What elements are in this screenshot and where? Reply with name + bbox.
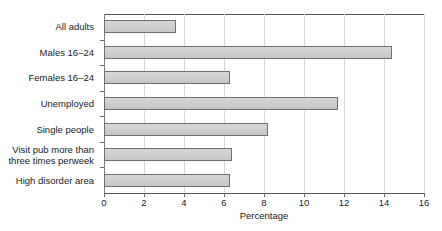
y-axis-tick	[100, 167, 104, 168]
bar	[104, 71, 230, 84]
x-axis-tick-label: 6	[204, 197, 244, 209]
category-label: Unemployed	[0, 98, 94, 109]
x-axis-title: Percentage	[104, 210, 424, 221]
category-label-line: Single people	[0, 124, 94, 135]
gridline	[344, 14, 345, 193]
category-label-line: High disorder area	[0, 175, 94, 186]
category-label-line: Unemployed	[0, 98, 94, 109]
x-axis-tick-label: 10	[284, 197, 324, 209]
x-axis-tick-label: 4	[164, 197, 204, 209]
y-axis-tick	[100, 40, 104, 41]
category-label: All adults	[0, 21, 94, 32]
category-label: Single people	[0, 124, 94, 135]
bar	[104, 123, 268, 136]
x-axis-tick-label: 0	[84, 197, 124, 209]
bar	[104, 20, 176, 33]
gridline	[424, 14, 425, 193]
category-label: Females 16–24	[0, 72, 94, 83]
category-label-line: All adults	[0, 21, 94, 32]
y-axis-tick	[100, 116, 104, 117]
category-label-line: Females 16–24	[0, 72, 94, 83]
bar-chart: 0246810121416 All adultsMales 16–24Femal…	[0, 0, 442, 231]
y-axis-tick	[100, 142, 104, 143]
x-axis-tick-label: 16	[404, 197, 442, 209]
category-label: Visit pub more thanthree times perweek	[0, 144, 94, 166]
x-axis-tick-label: 8	[244, 197, 284, 209]
category-label: High disorder area	[0, 175, 94, 186]
bar	[104, 46, 392, 59]
y-axis-tick	[100, 91, 104, 92]
category-label-line: three times perweek	[0, 155, 94, 166]
y-axis-tick	[100, 65, 104, 66]
category-label: Males 16–24	[0, 47, 94, 58]
category-label-line: Males 16–24	[0, 47, 94, 58]
bar	[104, 174, 230, 187]
bar	[104, 97, 338, 110]
x-axis-tick-label: 14	[364, 197, 404, 209]
x-axis-tick-label: 2	[124, 197, 164, 209]
x-axis-tick-label: 12	[324, 197, 364, 209]
bar	[104, 148, 232, 161]
gridline	[384, 14, 385, 193]
category-label-line: Visit pub more than	[0, 144, 94, 155]
